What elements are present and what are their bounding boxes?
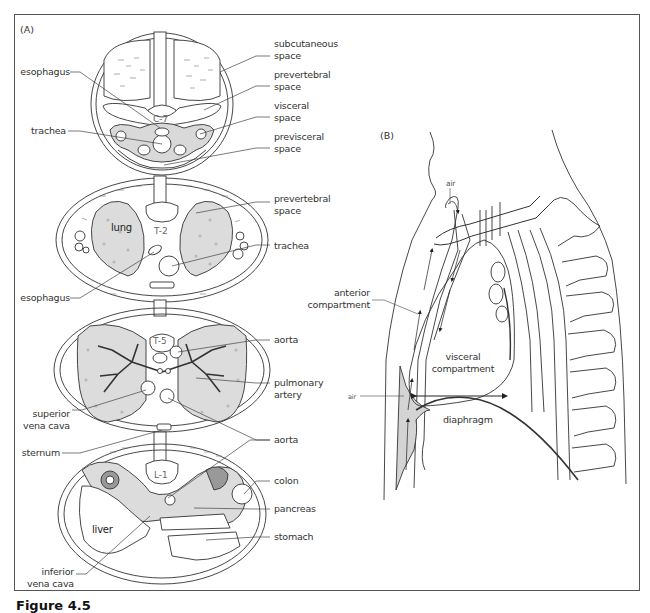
vertebra-c7-label: C-7 bbox=[153, 114, 168, 124]
section-c7-neck bbox=[91, 32, 233, 175]
section-t2-upper-thorax bbox=[56, 176, 268, 302]
label-previsceral-space: previsceralspace bbox=[274, 131, 324, 155]
label-prevertebral-space-t2: prevertebralspace bbox=[274, 193, 331, 217]
label-pulmonary-artery: pulmonaryartery bbox=[274, 377, 323, 401]
label-diaphragm: diaphragm bbox=[443, 414, 493, 426]
label-esophagus-c7: esophagus bbox=[20, 66, 70, 78]
label-aorta-t5: aorta bbox=[274, 334, 298, 346]
label-esophagus-t2: esophagus bbox=[20, 292, 70, 304]
label-stomach: stomach bbox=[274, 531, 313, 543]
vertebra-t5-label: T-5 bbox=[153, 336, 167, 346]
vertebra-l1-label: L-1 bbox=[154, 470, 168, 480]
figure-caption: Figure 4.5 bbox=[16, 598, 91, 613]
label-trachea-c7: trachea bbox=[20, 125, 66, 137]
label-liver: liver bbox=[92, 524, 113, 536]
label-anterior-compartment: anteriorcompartment bbox=[300, 287, 370, 311]
label-subcutaneous-space: subcutaneousspace bbox=[274, 38, 338, 62]
label-air-side: air bbox=[348, 391, 356, 403]
section-t5-mid-thorax bbox=[54, 300, 270, 432]
label-visceral-compartment: visceralcompartment bbox=[420, 351, 506, 375]
label-inferior-vena-cava: inferiorvena cava bbox=[20, 566, 74, 590]
panel-b-sagittal-view bbox=[360, 130, 626, 500]
label-prevertebral-space-c7: prevertebralspace bbox=[274, 69, 331, 93]
label-colon: colon bbox=[274, 475, 299, 487]
label-air-top: air bbox=[446, 178, 455, 190]
label-lung: lung bbox=[111, 222, 132, 234]
label-sternum: sternum bbox=[20, 447, 60, 459]
label-pancreas: pancreas bbox=[274, 503, 316, 515]
label-trachea-t2: trachea bbox=[274, 240, 309, 252]
label-visceral-space: visceralspace bbox=[274, 100, 309, 124]
label-aorta-lower: aorta bbox=[274, 434, 298, 446]
section-l1-abdomen bbox=[58, 432, 266, 584]
vertebra-t2-label: T-2 bbox=[154, 226, 168, 236]
label-superior-vena-cava: superiorvena cava bbox=[20, 408, 70, 432]
panel-b-label: (B) bbox=[380, 130, 394, 141]
panel-a-label: (A) bbox=[20, 24, 34, 35]
